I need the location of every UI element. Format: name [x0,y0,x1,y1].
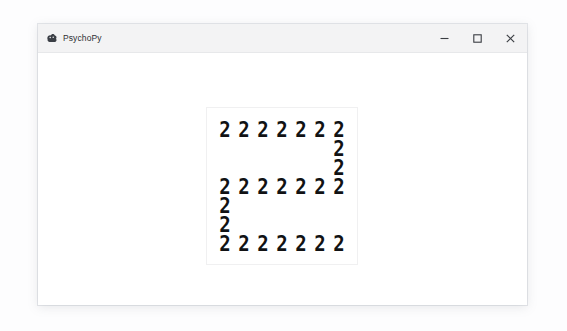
navon-local-letter: 2 [311,233,330,254]
experiment-stage: 2222222222222222222222222 [38,53,527,305]
navon-local-letter: 2 [311,119,330,140]
navon-local-letter: 2 [254,119,273,140]
title-bar[interactable]: PsychoPy [38,24,527,53]
navon-letter-grid: 2222222222222222222222222 [216,120,349,253]
navon-local-letter: 2 [292,119,311,140]
stimulus-panel: 2222222222222222222222222 [206,107,358,265]
navon-local-letter: 2 [273,233,292,254]
navon-local-letter: 2 [235,176,254,197]
navon-local-letter: 2 [273,119,292,140]
window-controls [428,24,527,52]
navon-local-letter: 2 [330,176,349,197]
navon-local-letter: 2 [330,233,349,254]
navon-local-letter: 2 [292,176,311,197]
navon-local-letter: 2 [273,176,292,197]
minimize-button[interactable] [428,24,461,52]
navon-local-letter: 2 [254,233,273,254]
navon-local-letter: 2 [216,233,235,254]
navon-local-letter: 2 [311,176,330,197]
navon-local-letter: 2 [216,119,235,140]
navon-local-letter: 2 [235,119,254,140]
navon-local-letter: 2 [292,233,311,254]
psychopy-logo-icon [46,32,58,44]
close-button[interactable] [494,24,527,52]
title-bar-left: PsychoPy [38,32,102,44]
navon-local-letter: 2 [235,233,254,254]
window-title: PsychoPy [63,33,102,43]
maximize-button[interactable] [461,24,494,52]
psychopy-window: PsychoPy 22222222222222222 [38,24,527,305]
navon-local-letter: 2 [254,176,273,197]
